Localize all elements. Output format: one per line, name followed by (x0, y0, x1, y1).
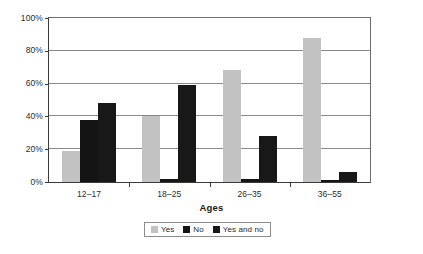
bar-group (290, 18, 370, 182)
bar-group (210, 18, 290, 182)
bar-group (129, 18, 209, 182)
bar (223, 70, 241, 182)
y-tick-label: 40% (0, 112, 43, 121)
x-tick-mark (290, 183, 291, 187)
x-tick-label: 18–25 (124, 189, 214, 199)
bar (178, 85, 196, 182)
legend-label: No (193, 225, 203, 234)
bar (339, 172, 357, 182)
legend-item[interactable]: No (183, 225, 203, 234)
bar (62, 151, 80, 182)
chart-legend: YesNoYes and no (144, 222, 271, 237)
x-tick-label: 26–35 (205, 189, 295, 199)
bar (142, 116, 160, 182)
bar-group (49, 18, 129, 182)
legend-item[interactable]: Yes and no (213, 225, 264, 234)
y-tick-label: 60% (0, 79, 43, 88)
y-tick-label: 80% (0, 46, 43, 55)
y-tick-label: 0% (0, 178, 43, 187)
x-tick-mark (129, 183, 130, 187)
x-tick-label: 12–17 (44, 189, 134, 199)
x-axis-title: Ages (0, 202, 423, 213)
bar (241, 179, 259, 182)
bar (160, 179, 178, 182)
bar (321, 180, 339, 182)
bar (303, 38, 321, 182)
legend-swatch-icon (213, 226, 220, 233)
y-tick-label: 100% (0, 14, 43, 23)
legend-label: Yes (161, 225, 174, 234)
legend-swatch-icon (183, 226, 190, 233)
bar (80, 120, 98, 182)
bar (259, 136, 277, 182)
y-tick-label: 20% (0, 145, 43, 154)
bar-chart-figure: 100%80%60%40%20%0% 12–1718–2526–3536–55 … (0, 0, 423, 254)
plot-area (48, 17, 371, 183)
x-tick-label: 36–55 (285, 189, 375, 199)
legend-label: Yes and no (223, 225, 264, 234)
legend-swatch-icon (151, 226, 158, 233)
x-tick-mark (210, 183, 211, 187)
legend-item[interactable]: Yes (151, 225, 174, 234)
bar (98, 103, 116, 182)
